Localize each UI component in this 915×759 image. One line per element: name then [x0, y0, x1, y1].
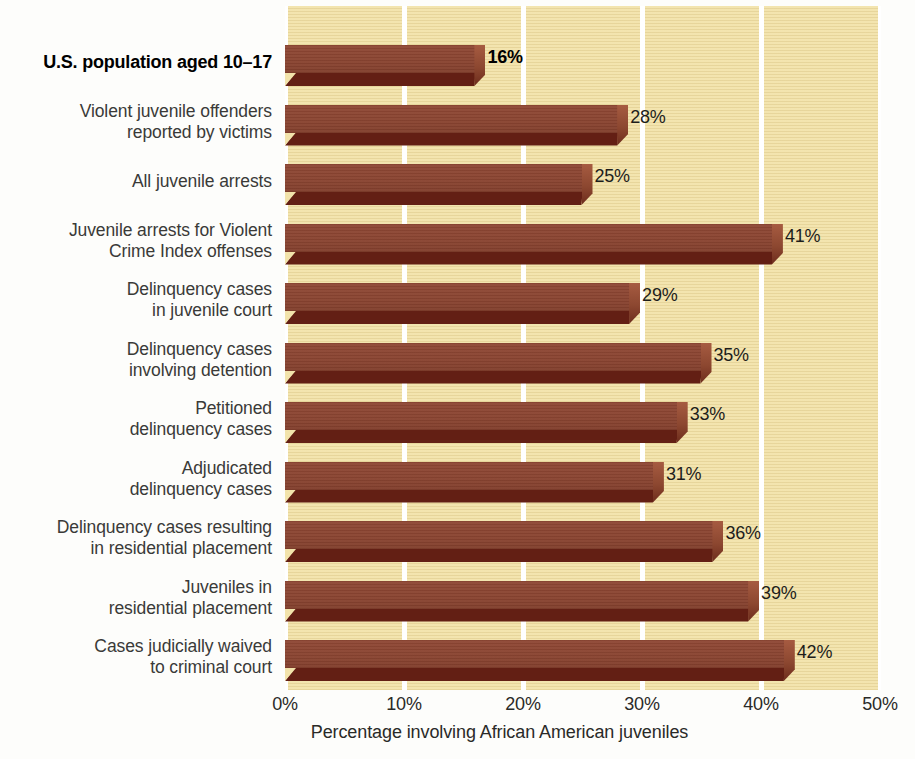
bar — [285, 402, 678, 444]
x-axis-title: Percentage involving African American ju… — [0, 722, 915, 743]
bar-bottom-face — [285, 311, 630, 324]
bar — [285, 462, 654, 504]
bar — [285, 283, 630, 325]
bar — [285, 105, 618, 147]
category-label: Delinquency cases resultingin residentia… — [0, 517, 272, 559]
category-label-line: delinquency cases — [0, 479, 272, 500]
bar-end-cap — [629, 283, 640, 324]
category-label-line: All juvenile arrests — [0, 171, 272, 192]
x-tick-40pct: 40% — [743, 694, 778, 715]
bar-end-cap — [653, 462, 664, 503]
bar-top-face — [285, 343, 702, 371]
bar — [285, 45, 475, 87]
bar-top-face — [285, 521, 713, 549]
bar-bottom-face — [285, 252, 773, 265]
category-label: All juvenile arrests — [0, 171, 272, 192]
x-tick-50pct: 50% — [862, 694, 897, 715]
bar-value-label: 16% — [487, 47, 522, 68]
bar-bottom-face — [285, 192, 583, 205]
bar-row: Cases judicially waivedto criminal court… — [0, 630, 915, 689]
category-label-line: Delinquency cases — [0, 339, 272, 360]
bar-bottom-face — [285, 609, 749, 622]
bar-row: U.S. population aged 10–1716% — [0, 35, 915, 94]
x-tick-30pct: 30% — [624, 694, 659, 715]
category-label: U.S. population aged 10–17 — [0, 52, 272, 73]
bar-value-label: 41% — [785, 226, 820, 247]
bar — [285, 164, 583, 206]
category-label-line: Violent juvenile offenders — [0, 101, 272, 122]
bar-value-label: 35% — [714, 345, 749, 366]
bar-top-face — [285, 283, 630, 311]
bar — [285, 343, 702, 385]
bar-end-cap — [474, 45, 485, 86]
x-tick-0pct: 0% — [272, 694, 298, 715]
bar — [285, 640, 785, 682]
category-label-line: Juveniles in — [0, 577, 272, 598]
bar-end-cap — [712, 521, 723, 562]
bar-end-cap — [617, 105, 628, 146]
bar-value-label: 25% — [595, 166, 630, 187]
bar-bottom-face — [285, 668, 785, 681]
x-tick-10pct: 10% — [386, 694, 421, 715]
category-label-line: in juvenile court — [0, 300, 272, 321]
bar — [285, 581, 749, 623]
bar-end-cap — [701, 343, 712, 384]
bar-end-cap — [748, 581, 759, 622]
category-label-line: Adjudicated — [0, 458, 272, 479]
bar-end-cap — [677, 402, 688, 443]
bar-row: Juveniles inresidential placement39% — [0, 571, 915, 630]
category-label-line: Petitioned — [0, 398, 272, 419]
category-label-line: Delinquency cases resulting — [0, 517, 272, 538]
bar-bottom-face — [285, 73, 475, 86]
bar-row: All juvenile arrests25% — [0, 154, 915, 213]
bar-row: Violent juvenile offendersreported by vi… — [0, 95, 915, 154]
bar-value-label: 33% — [690, 404, 725, 425]
bar-value-label: 39% — [761, 583, 796, 604]
category-label: Petitioneddelinquency cases — [0, 398, 272, 440]
bar-row: Petitioneddelinquency cases33% — [0, 392, 915, 451]
bar — [285, 521, 713, 563]
category-label-line: U.S. population aged 10–17 — [0, 52, 272, 73]
category-label-line: to criminal court — [0, 657, 272, 678]
category-label-line: in residential placement — [0, 538, 272, 559]
bar-top-face — [285, 45, 475, 73]
bar-row: Delinquency casesinvolving detention35% — [0, 333, 915, 392]
category-label: Adjudicateddelinquency cases — [0, 458, 272, 500]
category-label: Juveniles inresidential placement — [0, 577, 272, 619]
category-label-line: Cases judicially waived — [0, 636, 272, 657]
bar-end-cap — [784, 640, 795, 681]
bar-top-face — [285, 105, 618, 133]
category-label: Delinquency casesin juvenile court — [0, 279, 272, 321]
bar-top-face — [285, 640, 785, 668]
chart-container: U.S. population aged 10–1716%Violent juv… — [0, 0, 915, 759]
bar-bottom-face — [285, 490, 654, 503]
bar-bottom-face — [285, 371, 702, 384]
category-label-line: Juvenile arrests for Violent — [0, 220, 272, 241]
bar — [285, 224, 773, 266]
category-label: Violent juvenile offendersreported by vi… — [0, 101, 272, 143]
bar-end-cap — [582, 164, 593, 205]
x-axis-title-text: Percentage involving African American ju… — [227, 722, 689, 743]
bar-top-face — [285, 581, 749, 609]
bar-value-label: 31% — [666, 464, 701, 485]
category-label-line: involving detention — [0, 360, 272, 381]
category-label: Cases judicially waivedto criminal court — [0, 636, 272, 678]
bar-top-face — [285, 224, 773, 252]
bar-top-face — [285, 164, 583, 192]
bar-row: Delinquency cases resultingin residentia… — [0, 511, 915, 570]
bar-top-face — [285, 402, 678, 430]
x-axis-tick-labels: 0%10%20%30%40%50% — [0, 694, 915, 718]
category-label: Delinquency casesinvolving detention — [0, 339, 272, 381]
category-label-line: reported by victims — [0, 122, 272, 143]
bar-row: Delinquency casesin juvenile court29% — [0, 273, 915, 332]
bar-bottom-face — [285, 549, 713, 562]
bar-value-label: 29% — [642, 285, 677, 306]
category-label-line: delinquency cases — [0, 419, 272, 440]
bar-top-face — [285, 462, 654, 490]
bar-value-label: 42% — [797, 642, 832, 663]
category-label-line: Delinquency cases — [0, 279, 272, 300]
category-label-line: residential placement — [0, 598, 272, 619]
bar-value-label: 36% — [725, 523, 760, 544]
bar-row: Juvenile arrests for ViolentCrime Index … — [0, 214, 915, 273]
bar-value-label: 28% — [630, 107, 665, 128]
